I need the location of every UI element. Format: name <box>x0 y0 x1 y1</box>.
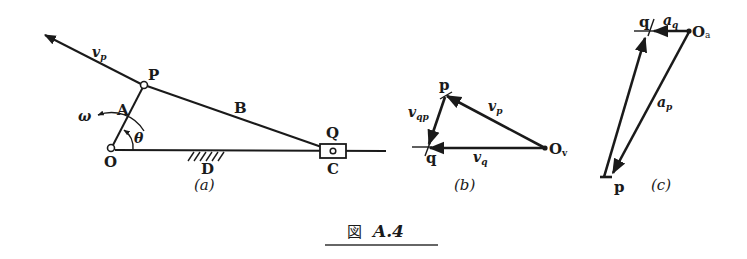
origin-ov-dot <box>542 145 547 150</box>
panel-b-velocity-polygon: p q Ov vp vqp vq (b) <box>408 76 568 194</box>
aq-label: aq <box>663 12 678 30</box>
theta-arc <box>124 130 133 150</box>
theta-label: θ <box>134 130 144 146</box>
vqp-label: vqp <box>408 104 429 122</box>
panel-b-caption: (b) <box>454 176 475 194</box>
panel-c-acceleration-polygon: q Oa aq ap p (c) <box>600 12 711 196</box>
panel-a-caption: (a) <box>194 176 215 194</box>
pivot-o <box>108 145 115 152</box>
point-q-label-c: q <box>639 13 650 31</box>
figure-canvas: vp P A B ω θ O D Q C (a) p q Ov vp vqp v… <box>0 0 747 259</box>
caption-prefix: 図 <box>347 223 362 241</box>
origin-oa-dot <box>686 28 691 33</box>
link-a-label: A <box>116 101 129 119</box>
caption-label: A.4 <box>371 221 404 241</box>
point-o-label: O <box>104 153 117 171</box>
origin-oa-label: Oa <box>692 23 711 41</box>
vector-ap <box>613 32 689 173</box>
vp-label: vp <box>92 44 107 62</box>
omega-label: ω <box>78 108 92 124</box>
point-q-label-b: q <box>426 149 437 167</box>
ap-label: ap <box>657 94 673 112</box>
point-p-label: P <box>148 66 159 84</box>
vector-qp-acc <box>604 38 645 177</box>
link-b-label: B <box>234 99 247 117</box>
point-p-label-b: p <box>439 76 450 94</box>
joint-p <box>141 82 148 89</box>
figure-caption: 図 A.4 <box>325 221 438 245</box>
vp-label-b: vp <box>488 98 503 116</box>
vq-label: vq <box>473 149 487 167</box>
origin-ov-label: Ov <box>549 140 568 158</box>
panel-c-caption: (c) <box>651 176 671 194</box>
slider-c-label: C <box>327 160 339 178</box>
connecting-rod-b <box>147 86 333 151</box>
point-q-label: Q <box>326 124 339 142</box>
vector-vqp <box>429 97 445 144</box>
joint-q <box>330 148 336 154</box>
panel-a-mechanism: vp P A B ω θ O D Q C (a) <box>45 35 386 194</box>
point-p-label-c: p <box>614 178 625 196</box>
